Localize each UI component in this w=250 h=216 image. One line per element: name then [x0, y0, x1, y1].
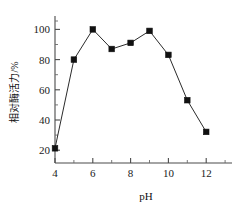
- y-tick-label-20: 20: [39, 144, 51, 156]
- data-point-ph-7: [109, 46, 115, 52]
- data-point-ph-4: [52, 146, 58, 152]
- x-axis-major-ticks: [55, 158, 206, 163]
- x-tick-label-6: 6: [90, 167, 96, 179]
- data-point-ph-11: [185, 97, 191, 103]
- y-axis-title: 相对酶活力/%: [8, 61, 20, 122]
- y-tick-label-80: 80: [39, 54, 51, 66]
- chart-figure: 100 80 60 40 20 4 6 8 10 12 pH 相对酶活力/%: [0, 0, 250, 216]
- data-point-ph-10: [166, 52, 172, 58]
- data-point-markers: [52, 27, 209, 152]
- data-point-ph-12: [203, 129, 209, 135]
- x-tick-label-10: 10: [163, 167, 175, 179]
- data-point-ph-8: [128, 40, 134, 46]
- x-tick-label-4: 4: [52, 167, 58, 179]
- line-chart-canvas: 100 80 60 40 20 4 6 8 10 12 pH 相对酶活力/%: [0, 0, 250, 216]
- data-series-line: [55, 29, 206, 148]
- y-tick-label-60: 60: [39, 84, 51, 96]
- x-axis-title: pH: [139, 190, 153, 202]
- x-tick-label-8: 8: [128, 167, 134, 179]
- x-tick-label-12: 12: [201, 167, 212, 179]
- data-point-ph-6: [90, 27, 96, 33]
- y-axis-major-ticks: [55, 29, 60, 150]
- y-tick-label-100: 100: [34, 23, 51, 35]
- y-tick-label-40: 40: [39, 114, 51, 126]
- data-point-ph-9: [147, 28, 153, 34]
- data-point-ph-5: [71, 57, 77, 63]
